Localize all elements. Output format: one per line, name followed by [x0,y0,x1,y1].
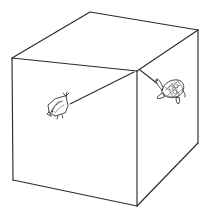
line-drawing-canvas [0,0,211,216]
figure-root: Isometric box with two creatures Black a… [0,0,211,216]
turtle-eye [156,80,158,82]
bird-eye [52,111,54,113]
